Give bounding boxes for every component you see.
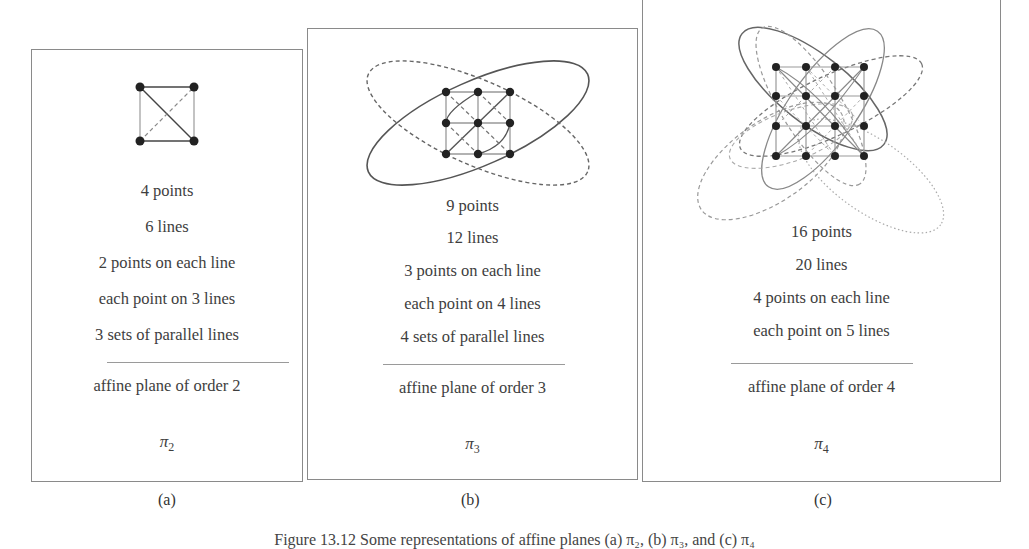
plane-name: affine plane of order 2 (32, 376, 302, 396)
divider (107, 362, 289, 363)
stat-points-per-line: 2 points on each line (32, 253, 302, 273)
stat-lines-per-point: each point on 5 lines (643, 321, 1000, 341)
plane-symbol: π4 (643, 434, 1000, 457)
stat-lines: 20 lines (643, 255, 1000, 275)
stat-points: 9 points (308, 196, 637, 216)
stat-parallel-classes: 4 sets of parallel lines (308, 327, 637, 347)
sublabel-c: (c) (814, 491, 832, 509)
pi-subscript: 2 (168, 440, 174, 454)
stat-points: 4 points (32, 181, 302, 201)
panel-a: 4 points 6 lines 2 points on each line e… (31, 49, 303, 482)
pi-symbol: π (465, 434, 474, 453)
plane-symbol: π2 (32, 432, 302, 455)
figure-caption: Figure 13.12 Some representations of aff… (0, 531, 1029, 549)
stat-lines-per-point: each point on 4 lines (308, 294, 637, 314)
plane-symbol: π3 (308, 434, 637, 457)
stat-parallel-classes: 3 sets of parallel lines (32, 325, 302, 345)
plane-name: affine plane of order 3 (308, 378, 637, 398)
pi-subscript: 3 (474, 442, 480, 456)
divider (383, 364, 565, 365)
pi-symbol: π (814, 434, 823, 453)
stat-points: 16 points (643, 222, 1000, 242)
divider (731, 363, 913, 364)
plane-name: affine plane of order 4 (643, 377, 1000, 397)
stat-points-per-line: 4 points on each line (643, 288, 1000, 308)
sublabel-a: (a) (158, 491, 176, 509)
pi-subscript: 4 (823, 442, 829, 456)
affine-plane-3-diagram (308, 29, 639, 481)
sublabel-b: (b) (461, 491, 480, 509)
pi-symbol: π (160, 432, 169, 451)
stat-lines: 6 lines (32, 217, 302, 237)
stat-lines-per-point: each point on 3 lines (32, 289, 302, 309)
panel-c: 16 points 20 lines 4 points on each line… (642, 0, 1001, 482)
stat-points-per-line: 3 points on each line (308, 261, 637, 281)
stat-lines: 12 lines (308, 228, 637, 248)
panel-b: 9 points 12 lines 3 points on each line … (307, 28, 638, 480)
